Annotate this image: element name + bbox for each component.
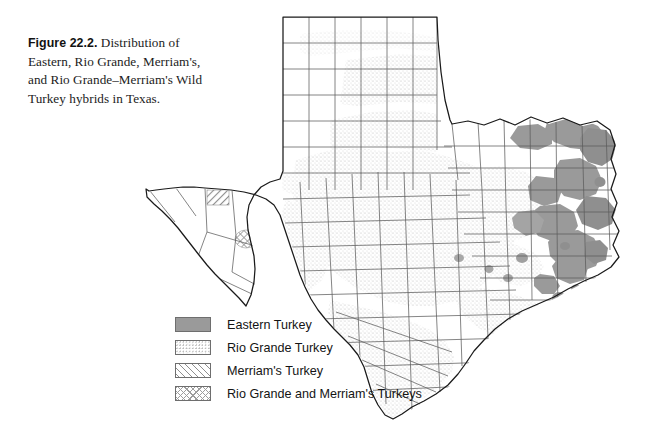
legend-label-rio-grande-turkey: Rio Grande Turkey — [227, 341, 333, 355]
legend-label-merriams-turkey: Merriam's Turkey — [227, 364, 323, 378]
legend-item-rio-grande-and-merriams-turkeys: Rio Grande and Merriam's Turkeys — [175, 383, 475, 404]
legend-label-rio-grande-and-merriams-turkeys: Rio Grande and Merriam's Turkeys — [227, 387, 422, 401]
region-merriams-turkey — [207, 190, 229, 205]
legend-swatch-merriams-turkey — [175, 363, 211, 378]
legend-swatch-eastern-turkey — [175, 317, 211, 332]
legend-item-rio-grande-turkey: Rio Grande Turkey — [175, 337, 475, 358]
map-legend: Eastern Turkey Rio Grande Turkey Merriam… — [175, 314, 475, 406]
figure-page: Figure 22.2. Distribution of Eastern, Ri… — [0, 0, 661, 440]
legend-item-merriams-turkey: Merriam's Turkey — [175, 360, 475, 381]
legend-item-eastern-turkey: Eastern Turkey — [175, 314, 475, 335]
legend-swatch-rio-grande-and-merriams-turkeys — [175, 386, 211, 401]
legend-label-eastern-turkey: Eastern Turkey — [227, 318, 312, 332]
region-rio-grande-and-merriams-turkeys — [235, 230, 257, 248]
legend-swatch-rio-grande-turkey — [175, 340, 211, 355]
